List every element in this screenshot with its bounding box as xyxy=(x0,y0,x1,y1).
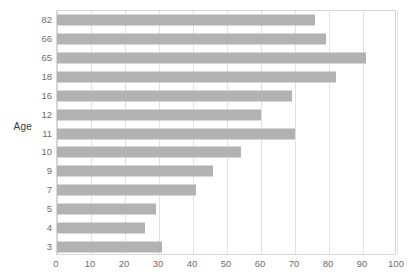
bar xyxy=(57,147,241,158)
gridline-x-70 xyxy=(295,11,296,254)
y-tick-label: 5 xyxy=(30,202,52,213)
y-tick-label: 82 xyxy=(30,14,52,25)
x-tick-label: 90 xyxy=(357,258,368,269)
bar xyxy=(57,34,326,45)
gridline-x-90 xyxy=(363,11,364,254)
bar xyxy=(57,241,162,252)
x-tick-label: 70 xyxy=(289,258,300,269)
y-tick-label: 66 xyxy=(30,33,52,44)
bar xyxy=(57,71,336,82)
y-tick-label: 7 xyxy=(30,184,52,195)
y-tick-label: 4 xyxy=(30,221,52,232)
bar xyxy=(57,15,315,26)
bar xyxy=(57,128,295,139)
y-axis-title: Age xyxy=(2,121,32,132)
bar xyxy=(57,222,145,233)
x-tick-label: 60 xyxy=(255,258,266,269)
y-tick-label: 3 xyxy=(30,240,52,251)
bar xyxy=(57,90,292,101)
y-tick-label: 18 xyxy=(30,70,52,81)
y-axis-tick-labels: 826665181612111097543 xyxy=(30,10,52,255)
x-tick-label: 40 xyxy=(187,258,198,269)
x-axis-tick-labels: 0102030405060708090100 xyxy=(56,258,396,276)
bar xyxy=(57,166,213,177)
x-tick-label: 100 xyxy=(388,258,404,269)
bar xyxy=(57,53,366,64)
bar xyxy=(57,203,156,214)
gridline-x-100 xyxy=(397,11,398,254)
bar-chart: Age 826665181612111097543 01020304050607… xyxy=(0,0,420,280)
x-tick-label: 50 xyxy=(221,258,232,269)
y-tick-label: 16 xyxy=(30,89,52,100)
bar xyxy=(57,109,261,120)
plot-area xyxy=(56,10,396,255)
y-tick-label: 9 xyxy=(30,165,52,176)
x-tick-label: 20 xyxy=(119,258,130,269)
y-tick-label: 11 xyxy=(30,127,52,138)
x-tick-label: 0 xyxy=(53,258,58,269)
x-tick-label: 30 xyxy=(153,258,164,269)
x-tick-label: 80 xyxy=(323,258,334,269)
y-tick-label: 65 xyxy=(30,52,52,63)
bar xyxy=(57,185,196,196)
x-tick-label: 10 xyxy=(85,258,96,269)
y-tick-label: 12 xyxy=(30,108,52,119)
y-tick-label: 10 xyxy=(30,146,52,157)
gridline-x-80 xyxy=(329,11,330,254)
